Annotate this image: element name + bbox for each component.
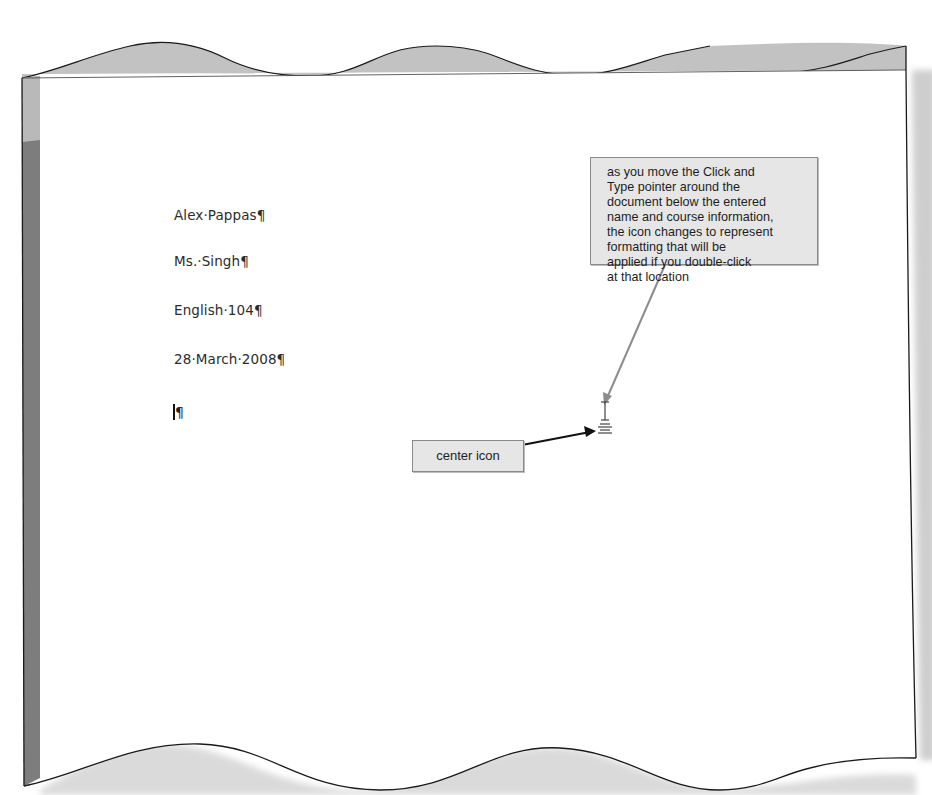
callout-line: name and course information, xyxy=(607,210,807,225)
document-line-name[interactable]: Alex·Pappas¶ xyxy=(174,207,265,223)
paragraph-mark: ¶ xyxy=(175,404,184,420)
torn-page-frame xyxy=(0,0,932,795)
document-line-instructor[interactable]: Ms.·Singh¶ xyxy=(174,253,249,269)
callout-line: Type pointer around the xyxy=(607,180,807,195)
document-line-date[interactable]: 28·March·2008¶ xyxy=(174,351,285,367)
callout-line: applied if you double-click xyxy=(607,255,807,270)
callout-center-icon: center icon xyxy=(412,440,524,472)
insertion-line[interactable]: ¶ xyxy=(173,404,184,420)
callout-line: at that location xyxy=(607,270,807,285)
callout-line: the icon changes to represent xyxy=(607,225,807,240)
document-line-course[interactable]: English·104¶ xyxy=(174,302,263,318)
callout-line: as you move the Click and xyxy=(607,165,807,180)
callout-click-and-type-explanation: as you move the Click and Type pointer a… xyxy=(590,157,818,265)
callout-line: formatting that will be xyxy=(607,240,807,255)
callout-line: document below the entered xyxy=(607,195,807,210)
